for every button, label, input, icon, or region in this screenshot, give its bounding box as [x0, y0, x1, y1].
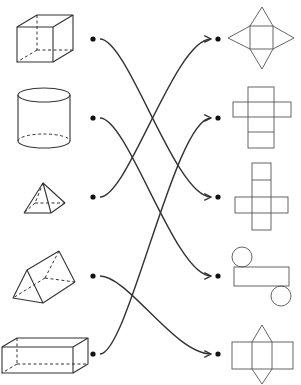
left-dots — [90, 36, 95, 356]
dot-cube-net[interactable] — [215, 194, 220, 199]
dot-rectangular-prism-net[interactable] — [215, 115, 220, 120]
dot-cube[interactable] — [90, 36, 95, 41]
rectangular-prism-net-icon — [233, 87, 291, 148]
dot-square-pyramid[interactable] — [90, 194, 95, 199]
right-dots — [215, 36, 220, 356]
dot-triangular-prism[interactable] — [90, 273, 95, 278]
cube-icon — [17, 15, 73, 62]
dot-cylinder[interactable] — [90, 115, 95, 120]
matching-diagram — [0, 0, 301, 385]
square-pyramid-icon — [24, 183, 65, 213]
cylinder-icon — [18, 88, 70, 148]
triangular-prism-icon — [13, 251, 75, 303]
square-pyramid-net-icon — [228, 7, 294, 69]
connector-cube-to-cube-net — [100, 39, 211, 197]
connector-cylinder-to-cylinder-net — [100, 118, 211, 276]
dot-cylinder-net[interactable] — [215, 273, 220, 278]
dot-rectangular-prism[interactable] — [90, 351, 95, 356]
dot-triangular-prism-net[interactable] — [215, 351, 220, 356]
connector-square-pyramid-to-square-pyramid-net — [100, 39, 211, 197]
connectors — [100, 39, 211, 354]
connector-triangular-prism-to-triangular-prism-net — [100, 276, 211, 354]
rectangular-prism-icon — [2, 338, 88, 373]
cube-net-icon — [235, 163, 288, 230]
cylinder-net-icon — [232, 247, 291, 306]
triangular-prism-net-icon — [232, 325, 293, 384]
dot-square-pyramid-net[interactable] — [215, 36, 220, 41]
